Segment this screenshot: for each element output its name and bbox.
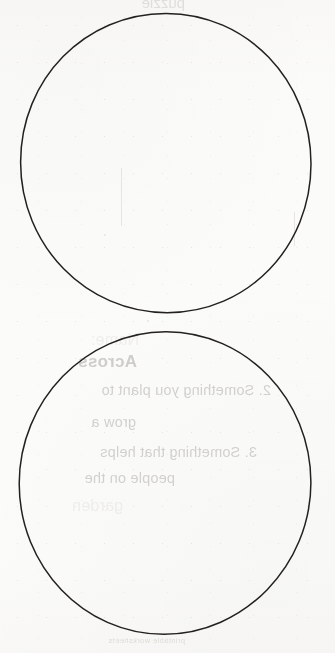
drawn-circles-layer [0, 0, 335, 653]
scanned-page: puzzle Name: Across 2. Something you pla… [0, 0, 335, 653]
lower-circle [19, 332, 311, 635]
upper-circle [21, 13, 311, 312]
